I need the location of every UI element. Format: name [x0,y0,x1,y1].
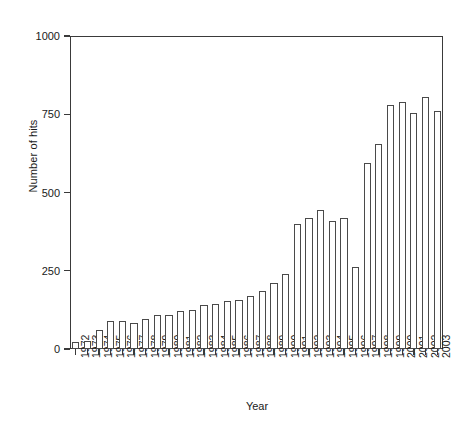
y-axis-label: Number of hits [27,76,39,236]
bar [294,224,301,349]
x-tick-mark [192,349,193,355]
x-tick-mark [390,349,391,355]
bar [329,221,336,349]
y-tick-mark [64,348,70,349]
x-tick-mark [227,349,228,355]
x-tick-mark [168,349,169,355]
bar-chart-figure: Number of hits 02505007501000 1972197319… [0,0,465,421]
x-tick-mark [425,349,426,355]
y-tick-label: 250 [42,265,60,277]
bar [165,315,172,349]
bar [387,105,394,349]
x-tick-label: 2003 [441,335,452,358]
bar [200,305,207,349]
x-tick-mark [250,349,251,355]
x-tick-mark [343,349,344,355]
x-tick-mark [297,349,298,355]
bar [305,218,312,349]
bar [154,315,161,349]
bar [107,321,114,349]
y-tick-label: 750 [42,108,60,120]
x-tick-mark [437,349,438,355]
x-tick-mark [157,349,158,355]
bar [130,323,137,349]
x-tick-mark [203,349,204,355]
x-tick-mark [332,349,333,355]
x-tick-mark [122,349,123,355]
x-tick-mark [285,349,286,355]
bar [142,319,149,349]
bar [72,342,79,349]
x-tick-mark [413,349,414,355]
bar [399,102,406,349]
bar [270,283,277,349]
bar [434,111,441,349]
bar [259,291,266,349]
bar [317,210,324,349]
x-tick-mark [215,349,216,355]
y-tick-mark [64,114,70,115]
x-tick-mark [145,349,146,355]
y-tick-mark [64,270,70,271]
x-tick-mark [75,349,76,355]
bar [352,267,359,349]
x-tick-mark [180,349,181,355]
x-tick-mark [308,349,309,355]
bar [422,97,429,349]
y-tick-label: 0 [54,343,60,355]
x-tick-mark [238,349,239,355]
y-tick-mark [64,192,70,193]
bar [364,163,371,349]
y-tick-mark [64,35,70,36]
bar [235,300,242,349]
x-tick-mark [378,349,379,355]
bar [340,218,347,349]
x-tick-mark [273,349,274,355]
bar [224,301,231,349]
x-axis-label: Year [70,400,444,412]
bar [189,310,196,349]
bar [247,296,254,349]
x-tick-mark [98,349,99,355]
x-tick-mark [133,349,134,355]
x-tick-mark [402,349,403,355]
bar [282,274,289,349]
bar [119,321,126,349]
bar [410,113,417,349]
x-tick-mark [87,349,88,355]
x-tick-mark [320,349,321,355]
y-tick-label: 500 [42,187,60,199]
bar [212,304,219,349]
bar [96,330,103,349]
x-tick-mark [262,349,263,355]
bar [177,311,184,349]
bar [84,341,91,349]
y-tick-label: 1000 [36,30,60,42]
x-tick-mark [355,349,356,355]
x-tick-mark [110,349,111,355]
x-tick-mark [367,349,368,355]
bar [375,144,382,349]
